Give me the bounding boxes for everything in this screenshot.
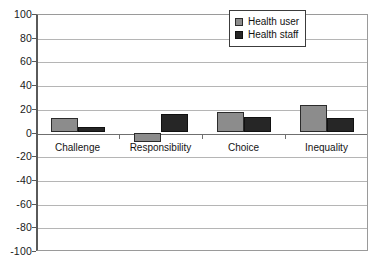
bar: [300, 105, 327, 132]
y-axis-tick-label: -60: [0, 199, 32, 210]
legend: Health userHealth staff: [229, 10, 306, 47]
y-axis-tick-mark: [32, 227, 36, 228]
y-axis-tick-label: -80: [0, 222, 32, 233]
bar: [78, 127, 105, 133]
bar: [134, 133, 161, 142]
y-axis-tick-label: 80: [0, 33, 32, 44]
y-axis-tick-label: 60: [0, 56, 32, 67]
legend-item: Health staff: [235, 29, 299, 41]
legend-swatch-icon: [235, 18, 243, 26]
gridline: [38, 228, 367, 229]
y-axis-tick-label: -100: [0, 246, 32, 257]
y-axis-tick-mark: [32, 61, 36, 62]
legend-swatch-icon: [235, 31, 243, 39]
y-axis-tick-label: -40: [0, 175, 32, 186]
x-axis-tick-mark: [202, 134, 203, 139]
legend-item: Health user: [235, 16, 299, 28]
gridline: [38, 205, 367, 206]
y-axis-tick-mark: [32, 156, 36, 157]
legend-item-label: Health user: [248, 17, 299, 27]
y-axis-tick-mark: [32, 14, 36, 15]
plot-area: [36, 14, 368, 251]
y-axis-tick-mark: [32, 251, 36, 252]
y-axis-tick-mark: [32, 133, 36, 134]
x-axis-tick-mark: [285, 134, 286, 139]
y-axis-tick-label: 100: [0, 9, 32, 20]
bar: [327, 118, 354, 132]
y-axis-tick-label: 40: [0, 80, 32, 91]
bar-chart: 100806040200-20-40-60-80-100 ChallengeRe…: [0, 0, 372, 265]
bar: [244, 117, 271, 132]
gridline: [38, 157, 367, 158]
y-axis-tick-label: -20: [0, 151, 32, 162]
x-axis-tick-mark: [119, 134, 120, 139]
y-axis-tick-mark: [32, 85, 36, 86]
y-axis-tick-label: 0: [0, 128, 32, 139]
gridline: [38, 62, 367, 63]
y-axis-tick-label: 20: [0, 104, 32, 115]
x-axis-category-label: Inequality: [267, 143, 372, 153]
y-axis-tick-mark: [32, 180, 36, 181]
gridline: [38, 181, 367, 182]
y-axis-tick-mark: [32, 38, 36, 39]
legend-item-label: Health staff: [248, 30, 298, 40]
bar: [217, 112, 244, 132]
gridline: [38, 39, 367, 40]
y-axis-tick-mark: [32, 109, 36, 110]
bar: [161, 114, 188, 133]
gridline: [38, 86, 367, 87]
bar: [51, 118, 78, 132]
y-axis-tick-mark: [32, 204, 36, 205]
